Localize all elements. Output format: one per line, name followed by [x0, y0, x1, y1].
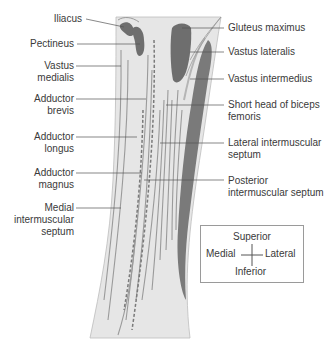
legend-lateral: Lateral: [265, 248, 296, 260]
label-adductor-longus: Adductor longus: [20, 131, 74, 155]
orientation-legend: Superior Medial Lateral Inferior: [200, 225, 304, 283]
label-medial-intermuscular-septum: Medial intermuscular septum: [2, 202, 74, 238]
legend-inferior: Inferior: [235, 266, 266, 278]
label-adductor-brevis: Adductor brevis: [20, 93, 74, 117]
label-posterior-intermuscular-septum: Posterior intermuscular septum: [228, 175, 324, 199]
label-iliacus: Iliacus: [30, 13, 82, 25]
label-vastus-medialis: Vastus medialis: [20, 60, 74, 84]
label-adductor-magnus: Adductor magnus: [20, 167, 74, 191]
label-short-head-biceps-femoris: Short head of biceps femoris: [228, 99, 320, 123]
label-gluteus-maximus: Gluteus maximus: [228, 22, 305, 34]
legend-medial: Medial: [206, 248, 235, 260]
crosshair-icon: [241, 244, 263, 266]
label-lateral-intermuscular-septum: Lateral intermuscular septum: [228, 137, 321, 161]
label-vastus-intermedius: Vastus intermedius: [228, 73, 312, 85]
label-pectineus: Pectineus: [20, 38, 74, 50]
label-vastus-lateralis: Vastus lateralis: [228, 46, 295, 58]
legend-superior: Superior: [233, 231, 271, 243]
